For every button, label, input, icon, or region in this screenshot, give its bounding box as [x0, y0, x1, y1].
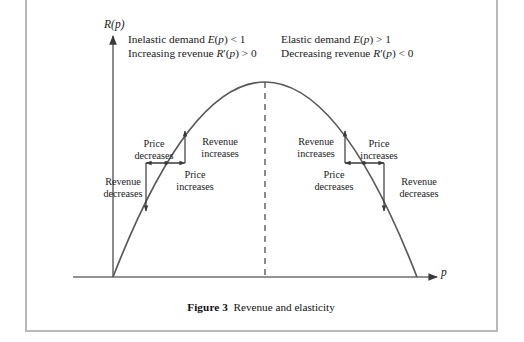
left-price-decreases-label: Price decreases [124, 138, 184, 163]
x-axis-label: p [441, 266, 447, 278]
left-price-decreases-line1: Price [124, 138, 184, 150]
right-price-decreases-label: Price decreases [305, 169, 363, 194]
right-price-decreases-line2: decreases [305, 181, 363, 193]
left-price-increases-label: Price increases [166, 169, 224, 194]
revenue-elasticity-plot [0, 0, 524, 342]
left-price-increases-line2: increases [166, 181, 224, 193]
left-price-increases-line1: Price [166, 169, 224, 181]
figure-caption-label: Figure 3 [187, 301, 228, 313]
left-price-decreases-line2: decreases [124, 150, 184, 162]
left-revenue-increases-label: Revenue increases [190, 136, 250, 161]
right-revenue-increases-label: Revenue increases [285, 136, 347, 161]
figure-caption-text: Revenue and elasticity [234, 301, 335, 313]
right-price-increases-line2: increases [349, 150, 409, 162]
left-revenue-decreases-line2: decreases [93, 188, 153, 200]
figure-caption: Figure 3 Revenue and elasticity [25, 301, 497, 313]
figure-container: R(p) p Inelastic demand E(p) < 1 Increas… [0, 0, 524, 342]
right-revenue-increases-line1: Revenue [285, 136, 347, 148]
left-revenue-increases-line1: Revenue [190, 136, 250, 148]
right-price-increases-line1: Price [349, 138, 409, 150]
left-revenue-decreases-line1: Revenue [93, 176, 153, 188]
left-revenue-increases-line2: increases [190, 148, 250, 160]
inelastic-region-text: Inelastic demand E(p) < 1 Increasing rev… [128, 33, 257, 61]
elastic-region-text: Elastic demand E(p) > 1 Decreasing reven… [281, 33, 413, 61]
y-axis-label: R(p) [104, 18, 124, 30]
right-revenue-decreases-line1: Revenue [388, 176, 450, 188]
right-revenue-decreases-line2: decreases [388, 188, 450, 200]
right-price-decreases-line1: Price [305, 169, 363, 181]
right-price-increases-label: Price increases [349, 138, 409, 163]
left-revenue-decreases-label: Revenue decreases [93, 176, 153, 201]
right-revenue-increases-line2: increases [285, 148, 347, 160]
right-revenue-decreases-label: Revenue decreases [388, 176, 450, 201]
